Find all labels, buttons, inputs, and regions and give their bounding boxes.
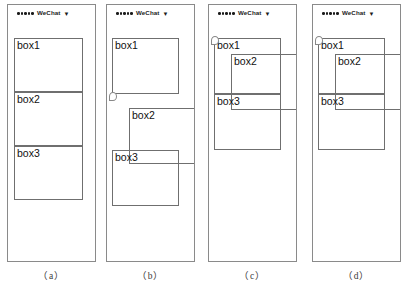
carrier-label: WeChat	[37, 10, 61, 16]
phone-screen: box1box2box3	[107, 22, 194, 261]
box-label: box2	[338, 55, 361, 68]
wifi-down-chevron-icon: ▼	[369, 11, 375, 17]
panel-b: WeChat▼box1box2box3	[106, 4, 195, 262]
box-label: box3	[17, 147, 40, 160]
box-1: box1	[112, 38, 179, 94]
box-label: box3	[217, 95, 240, 108]
box-1: box1	[14, 38, 83, 92]
box-label: box3	[115, 151, 138, 164]
box-label: box1	[217, 39, 240, 52]
carrier-label: WeChat	[238, 10, 262, 16]
signal-strength-icon	[322, 12, 339, 15]
phone-frame: WeChat▼box1box2box3	[208, 4, 297, 262]
signal-strength-icon	[17, 12, 34, 15]
phone-screen: box1box2box3	[209, 22, 296, 261]
status-bar: WeChat▼	[8, 5, 95, 22]
phone-screen: box1box2box3	[313, 22, 400, 261]
cursor-pointer-icon	[315, 36, 323, 45]
box-2: box2	[14, 92, 83, 146]
panel-c: WeChat▼box1box2box3	[208, 4, 297, 262]
panel-caption: （b）	[106, 268, 195, 282]
box-3: box3	[112, 150, 179, 206]
signal-strength-icon	[218, 12, 235, 15]
box-label: box3	[321, 95, 344, 108]
box-label: box2	[234, 55, 257, 68]
phone-frame: WeChat▼box1box2box3	[312, 4, 401, 262]
figure-canvas: WeChat▼box1box2box3（a）WeChat▼box1box2box…	[0, 0, 409, 291]
phone-screen: box1box2box3	[8, 22, 95, 261]
box-label: box1	[321, 39, 344, 52]
carrier-label: WeChat	[342, 10, 366, 16]
panel-a: WeChat▼box1box2box3	[7, 4, 96, 262]
box-3: box3	[214, 94, 281, 150]
signal-strength-icon	[116, 12, 133, 15]
wifi-down-chevron-icon: ▼	[163, 11, 169, 17]
carrier-label: WeChat	[136, 10, 160, 16]
phone-frame: WeChat▼box1box2box3	[7, 4, 96, 262]
status-bar: WeChat▼	[107, 5, 194, 22]
box-3: box3	[318, 94, 385, 150]
box-label: box2	[132, 109, 155, 122]
panel-caption: （a）	[7, 268, 96, 282]
box-label: box1	[17, 39, 40, 52]
box-3: box3	[14, 146, 83, 200]
status-bar: WeChat▼	[313, 5, 400, 22]
wifi-down-chevron-icon: ▼	[64, 11, 70, 17]
wifi-down-chevron-icon: ▼	[265, 11, 271, 17]
phone-frame: WeChat▼box1box2box3	[106, 4, 195, 262]
cursor-pointer-icon	[109, 92, 117, 101]
status-bar: WeChat▼	[209, 5, 296, 22]
panel-d: WeChat▼box1box2box3	[312, 4, 401, 262]
box-label: box2	[17, 93, 40, 106]
cursor-pointer-icon	[211, 36, 219, 45]
panel-caption: （d）	[312, 268, 401, 282]
box-label: box1	[115, 39, 138, 52]
panel-caption: （c）	[208, 268, 297, 282]
